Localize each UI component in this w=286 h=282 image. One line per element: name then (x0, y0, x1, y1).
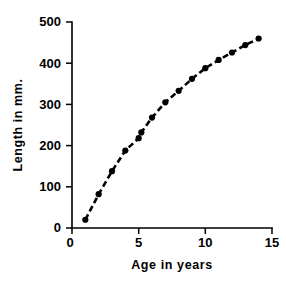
y-axis-title: Length in mm. (11, 78, 25, 171)
x-tick-label-10: 10 (198, 235, 212, 250)
y-tick-label-100: 100 (39, 179, 61, 194)
x-tick-label-0: 0 (66, 235, 73, 250)
data-point (176, 88, 182, 94)
x-tick-label-15: 15 (265, 235, 279, 250)
data-point (138, 129, 144, 135)
axis-spine (72, 22, 272, 228)
y-tick-label-0: 0 (54, 220, 61, 235)
data-point (202, 65, 208, 71)
data-point (96, 191, 102, 197)
data-point (216, 57, 222, 63)
data-point (189, 76, 195, 82)
x-axis-tick-labels: 0 5 10 15 (66, 235, 279, 250)
data-point (256, 35, 262, 41)
data-point (82, 217, 88, 223)
chart-canvas: 0 100 200 300 400 500 0 5 10 15 Length i… (0, 0, 286, 282)
data-point (136, 135, 142, 141)
y-tick-label-500: 500 (39, 14, 61, 29)
x-tick-label-5: 5 (135, 235, 142, 250)
y-axis-ticks (66, 22, 72, 228)
data-series-points (82, 35, 262, 222)
data-point (229, 49, 235, 55)
data-point (162, 99, 168, 105)
y-tick-label-400: 400 (39, 56, 61, 71)
y-tick-label-300: 300 (39, 97, 61, 112)
x-axis-ticks (72, 228, 272, 234)
y-axis-tick-labels: 0 100 200 300 400 500 (39, 14, 61, 235)
data-point (109, 168, 115, 174)
data-point (149, 114, 155, 120)
data-point (122, 147, 128, 153)
data-point (242, 42, 248, 48)
y-tick-label-200: 200 (39, 138, 61, 153)
data-series-line (85, 38, 258, 219)
x-axis-title: Age in years (131, 258, 213, 272)
